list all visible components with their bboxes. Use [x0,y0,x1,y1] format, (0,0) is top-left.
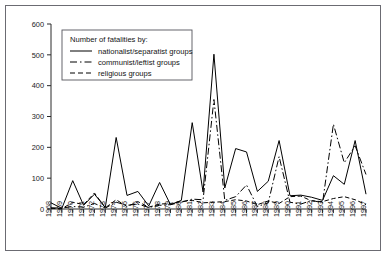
fatalities-line-chart: 0100200300400500600 19681969197019711972… [6,6,382,252]
x-tick-label: 1982 [196,201,205,217]
legend-label-communist: communist/leftist groups [98,58,180,67]
series-line-1 [51,100,366,209]
x-tick-label: 1978 [153,201,162,217]
y-tick-label: 100 [32,174,44,183]
x-tick-label: 1990 [283,201,292,217]
x-tick-label: 1986 [240,201,249,217]
y-tick-label: 500 [32,51,44,60]
y-tick-label: 300 [32,112,44,121]
y-axis-ticks: 0100200300400500600 [32,20,51,214]
x-tick-label: 1994 [326,201,335,217]
x-tick-label: 1980 [174,201,183,217]
x-tick-label: 1981 [185,201,194,217]
x-tick-label: 1984 [218,201,227,217]
x-tick-label: 1995 [337,201,346,217]
x-tick-label: 1976 [131,201,140,217]
x-tick-label: 1992 [305,201,314,217]
legend-label-religious: religious groups [98,69,152,78]
x-tick-label: 1983 [207,201,216,217]
x-tick-label: 1993 [316,201,325,217]
chart-legend: Number of fatalities by: nationalist/sep… [62,30,193,80]
x-tick-label: 1970 [66,201,75,217]
x-tick-label: 1996 [348,201,357,217]
y-tick-label: 400 [32,81,44,90]
chart-canvas: 0100200300400500600 19681969197019711972… [6,6,382,252]
y-tick-label: 200 [32,143,44,152]
y-tick-label: 600 [32,20,44,29]
x-tick-label: 1974 [109,201,118,217]
x-tick-label: 1997 [359,201,368,217]
figure-frame: 0100200300400500600 19681969197019711972… [5,5,381,251]
legend-title: Number of fatalities by: [70,35,148,44]
x-tick-label: 1985 [229,201,238,217]
x-axis-ticks: 1968196919701971197219731974197519761977… [44,201,368,217]
legend-label-nationalist: nationalist/separatist groups [98,47,193,56]
